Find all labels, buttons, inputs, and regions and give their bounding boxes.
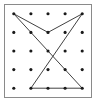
grid-dot-r2-c2 bbox=[29, 31, 32, 34]
segment-vee-vertex-to-top-right bbox=[48, 14, 82, 33]
grid-dot-r3-c4 bbox=[64, 49, 67, 52]
segment-top-right-to-bottom-left bbox=[31, 14, 82, 88]
grid-dot-r4-c4 bbox=[64, 68, 67, 71]
grid-dot-r1-c5 bbox=[81, 12, 84, 15]
grid-dot-r1-c2 bbox=[29, 12, 32, 15]
grid-dot-r3-c3 bbox=[46, 49, 49, 52]
grid-dot-r5-c3 bbox=[46, 87, 49, 90]
grid-dot-r1-c1 bbox=[12, 12, 15, 15]
grid-dot-r3-c1 bbox=[12, 49, 15, 52]
figure-frame bbox=[4, 4, 92, 98]
grid-dot-r1-c3 bbox=[46, 12, 49, 15]
grid-dot-r5-c2 bbox=[29, 87, 32, 90]
grid-dot-r5-c5 bbox=[81, 87, 84, 90]
grid-dot-r2-c3 bbox=[46, 31, 49, 34]
grid-dot-r4-c3 bbox=[46, 68, 49, 71]
grid-dot-r2-c1 bbox=[12, 31, 15, 34]
grid-dot-r4-c1 bbox=[12, 68, 15, 71]
grid-dot-r4-c5 bbox=[81, 68, 84, 71]
dot-grid-figure bbox=[5, 5, 91, 97]
grid-dot-r2-c5 bbox=[81, 31, 84, 34]
grid-dot-r3-c2 bbox=[29, 49, 32, 52]
segment-top-left-to-vee-vertex bbox=[14, 14, 48, 33]
grid-dot-r5-c4 bbox=[64, 87, 67, 90]
grid-dot-r3-c5 bbox=[81, 49, 84, 52]
grid-dot-r2-c4 bbox=[64, 31, 67, 34]
grid-dot-r4-c2 bbox=[29, 68, 32, 71]
grid-dot-r5-c1 bbox=[12, 87, 15, 90]
grid-dot-r1-c4 bbox=[64, 12, 67, 15]
